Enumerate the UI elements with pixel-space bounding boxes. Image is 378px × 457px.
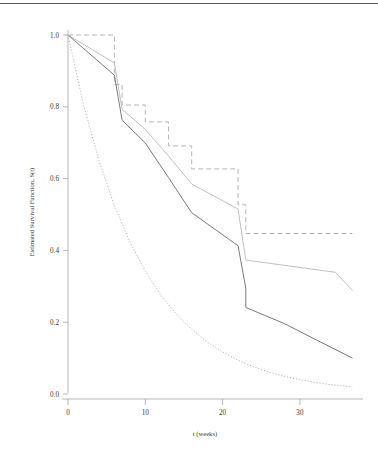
series-line-2: [68, 35, 352, 358]
x-tick-label-2: 10: [142, 409, 150, 417]
y-tick-label-2: 0.8: [50, 103, 59, 111]
x-tick-label-3: 20: [219, 409, 227, 417]
series-line-3: [68, 35, 352, 387]
series-line-1: [68, 35, 352, 291]
series-line-0: [68, 35, 352, 234]
axes-group: [62, 30, 363, 399]
x-tick-label-4: 30: [296, 409, 304, 417]
y-tick-label-1: 1.0: [50, 32, 59, 40]
x-axis-title: t (weeks): [193, 430, 217, 438]
y-tick-label-3: 0.6: [50, 175, 59, 183]
x-tick-label-1: 0: [66, 409, 70, 417]
y-tick-label-6: 0.0: [50, 391, 59, 399]
series-layer: [68, 35, 352, 387]
y-tick-label-5: 0.2: [50, 319, 59, 327]
figure-container: 1.0 0.8 0.6 0.4 0.2 0.0 0 10 20 30 t (we…: [0, 0, 378, 457]
survival-plot: 1.0 0.8 0.6 0.4 0.2 0.0 0 10 20 30 t (we…: [0, 0, 378, 457]
y-axis-ticks: 1.0 0.8 0.6 0.4 0.2 0.0: [50, 32, 68, 399]
y-tick-label-4: 0.4: [50, 247, 59, 255]
y-axis-title: Estimated Survival Function, S(t): [28, 168, 36, 257]
x-axis-ticks: 0 10 20 30: [66, 399, 304, 417]
